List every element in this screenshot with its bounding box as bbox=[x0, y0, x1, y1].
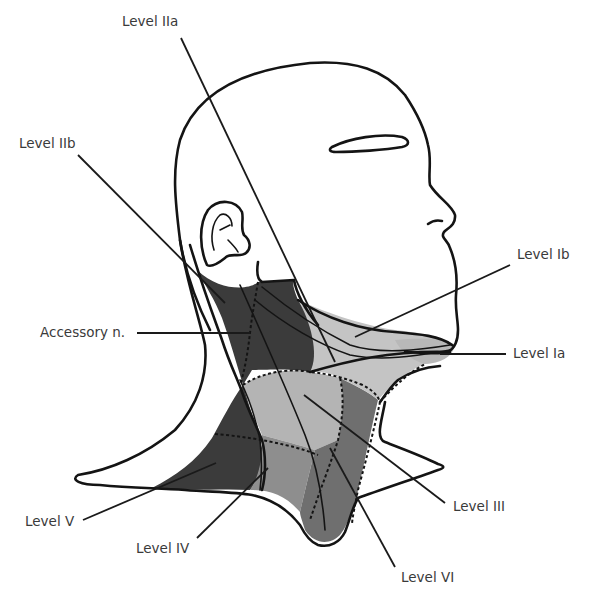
label-level-iib: Level IIb bbox=[19, 137, 75, 151]
label-level-iv: Level IV bbox=[136, 542, 189, 556]
label-level-ib: Level Ib bbox=[517, 248, 569, 262]
label-accessory-n: Accessory n. bbox=[40, 326, 125, 340]
label-level-iia: Level IIa bbox=[122, 15, 178, 29]
neck-levels-diagram bbox=[0, 0, 589, 607]
label-level-iii: Level III bbox=[453, 500, 505, 514]
label-level-ia: Level Ia bbox=[513, 347, 565, 361]
leader-level-ib bbox=[355, 265, 510, 337]
eyebrow bbox=[330, 136, 408, 152]
label-level-vi: Level VI bbox=[401, 571, 454, 585]
mouth bbox=[428, 221, 442, 224]
label-level-v: Level V bbox=[25, 515, 74, 529]
ear-inner bbox=[212, 214, 238, 252]
ear bbox=[201, 202, 250, 266]
leader-level-iib bbox=[78, 155, 225, 303]
